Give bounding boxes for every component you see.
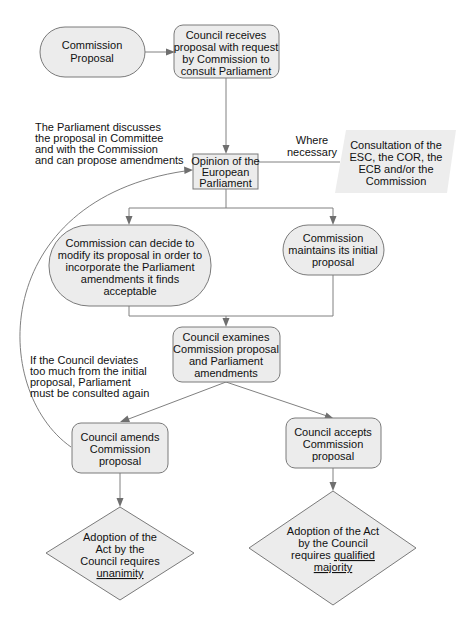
- annotation-parliament-discusses: The Parliament discusses the proposal in…: [35, 121, 184, 166]
- node-label-line: Council receives: [186, 29, 267, 41]
- node-label-line: Council amends: [81, 431, 160, 443]
- node-label-line: Proposal: [70, 52, 113, 64]
- node-label-emphasis: qualified: [334, 549, 375, 561]
- node-label-emphasis: unanimity: [96, 567, 144, 579]
- node-label-line: Consultation of the: [350, 139, 442, 151]
- edge-amends-loop-to-opinion: [20, 171, 185, 447]
- node-label-line: Commission: [303, 232, 364, 244]
- arrowhead-icon: [223, 318, 230, 327]
- arrowhead-icon: [117, 498, 124, 507]
- node-council-amends: Council amends Commission proposal: [72, 423, 168, 473]
- node-label-line: Council examines: [183, 331, 270, 343]
- node-commission-maintains: Commission maintains its initial proposa…: [283, 225, 384, 275]
- node-label-prefix: requires: [291, 549, 334, 561]
- annotation-line: Where: [296, 134, 328, 146]
- node-label-line: by the Council: [298, 537, 368, 549]
- annotation-line: necessary: [287, 146, 338, 158]
- edge-opinion-split: [129, 189, 226, 218]
- node-label-line: Adoption of the: [83, 531, 157, 543]
- node-label-line: Commission: [90, 443, 151, 455]
- node-label-line: Act by the: [96, 543, 145, 555]
- node-consultation-bodies: Consultation of the ESC, the COR, the EC…: [335, 130, 456, 193]
- annotation-line: and can propose amendments: [35, 154, 184, 166]
- node-label-line: proposal with request: [174, 41, 279, 53]
- node-label-line: amendments it finds: [81, 273, 180, 285]
- arrowhead-icon: [184, 167, 193, 175]
- node-label-line: ESC, the COR, the: [350, 151, 443, 163]
- node-label-line: ECB and/or the: [358, 163, 433, 175]
- node-commission-proposal: Commission Proposal: [40, 27, 145, 77]
- node-commission-modify: Commission can decide to modify its prop…: [49, 225, 211, 306]
- arrowhead-icon: [120, 416, 130, 423]
- node-label-line: proposal: [99, 455, 141, 467]
- node-label-line: maintains its initial: [288, 244, 377, 256]
- edge-examines-to-accepts: [226, 382, 327, 416]
- node-label-line: Commission: [366, 175, 427, 187]
- node-label-line: requires qualified: [291, 549, 375, 561]
- node-opinion-european-parliament: Opinion of the European Parliament: [191, 154, 260, 189]
- node-label-line: and Parliament: [189, 355, 263, 367]
- node-label-line: proposal: [312, 450, 354, 462]
- node-adoption-qualified-majority: Adoption of the Act by the Council requi…: [249, 491, 416, 605]
- node-council-receives: Council receives proposal with request b…: [174, 25, 279, 78]
- arrowhead-icon: [126, 216, 133, 225]
- arrowhead-icon: [223, 145, 230, 154]
- node-label-line: Commission: [62, 39, 123, 51]
- node-council-accepts: Council accepts Commission proposal: [286, 418, 381, 468]
- node-label-line: Commission proposal: [173, 343, 279, 355]
- edge-opinion-to-maintains: [226, 208, 333, 218]
- node-label-line: consult Parliament: [181, 65, 272, 77]
- node-council-examines: Council examines Commission proposal and…: [173, 327, 280, 382]
- node-label-line: modify its proposal in order to: [58, 249, 202, 261]
- annotation-line: must be consulted again: [30, 387, 149, 399]
- node-adoption-unanimity: Adoption of the Act by the Council requi…: [46, 507, 194, 600]
- annotation-where-necessary: Where necessary: [287, 134, 338, 158]
- node-label-line: Commission can decide to: [65, 237, 194, 249]
- node-label-line: acceptable: [103, 285, 156, 297]
- node-label-line: Council accepts: [294, 426, 372, 438]
- node-label-line: incorporate the Parliament: [65, 261, 194, 273]
- node-label-line: Council requires: [80, 555, 160, 567]
- node-label-line: Commission: [303, 438, 364, 450]
- node-label-emphasis: majority: [314, 561, 353, 573]
- node-label-line: Parliament: [199, 177, 252, 189]
- arrowhead-icon: [330, 216, 337, 225]
- node-label-line: by Commission to: [182, 53, 269, 65]
- node-label-line: proposal: [312, 256, 354, 268]
- node-label-line: Adoption of the Act: [287, 525, 379, 537]
- arrowhead-icon: [330, 482, 337, 491]
- node-label-line: amendments: [194, 367, 258, 379]
- annotation-council-deviates: If the Council deviates too much from th…: [30, 354, 149, 399]
- legislative-procedure-flowchart: Commission Proposal Council receives pro…: [0, 0, 467, 624]
